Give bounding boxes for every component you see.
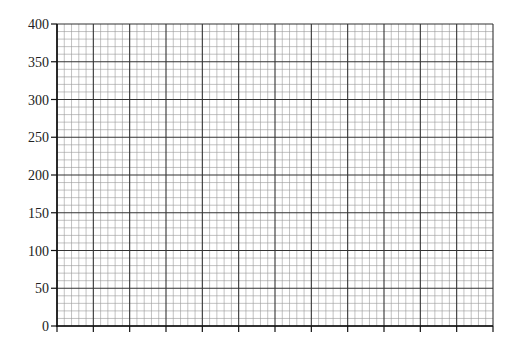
graph-paper-chart: 050100150200250300350400 bbox=[0, 0, 519, 348]
axes bbox=[51, 24, 493, 332]
y-axis-labels: 050100150200250300350400 bbox=[28, 17, 49, 334]
y-tick-label: 350 bbox=[28, 55, 49, 70]
y-tick-label: 300 bbox=[28, 93, 49, 108]
y-tick-label: 400 bbox=[28, 17, 49, 32]
y-tick-label: 200 bbox=[28, 168, 49, 183]
y-tick-label: 150 bbox=[28, 206, 49, 221]
y-tick-label: 100 bbox=[28, 244, 49, 259]
y-tick-label: 50 bbox=[35, 281, 49, 296]
y-tick-label: 0 bbox=[42, 319, 49, 334]
y-tick-label: 250 bbox=[28, 130, 49, 145]
